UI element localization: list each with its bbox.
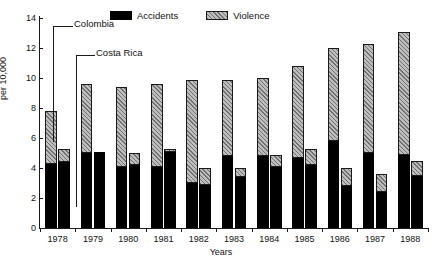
segment-accidents bbox=[151, 167, 163, 229]
bar-costa-rica-1980 bbox=[129, 153, 141, 228]
segment-violence bbox=[363, 44, 375, 154]
segment-violence bbox=[129, 153, 141, 165]
bar-costa-rica-1986 bbox=[341, 168, 353, 228]
leader-colombia-vertical bbox=[53, 26, 54, 142]
x-tick-label: 1979 bbox=[83, 234, 103, 244]
segment-violence bbox=[328, 48, 340, 141]
legend-label-violence: Violence bbox=[233, 10, 269, 21]
bar-costa-rica-1987 bbox=[376, 174, 388, 228]
segment-accidents bbox=[398, 155, 410, 229]
bar-colombia-1980 bbox=[116, 87, 128, 228]
x-tick-label: 1985 bbox=[295, 234, 315, 244]
segment-violence bbox=[305, 149, 317, 166]
x-tick bbox=[111, 228, 112, 232]
segment-accidents bbox=[129, 165, 141, 228]
stacked-bar-chart: per 10,000 02468101214 19781979198019811… bbox=[0, 0, 442, 270]
segment-accidents bbox=[328, 141, 340, 228]
segment-accidents bbox=[270, 167, 282, 229]
bar-costa-rica-1985 bbox=[305, 149, 317, 229]
leader-colombia-horizontal bbox=[53, 26, 73, 27]
segment-accidents bbox=[116, 167, 128, 229]
y-tick-label: 4 bbox=[0, 163, 36, 173]
segment-accidents bbox=[58, 162, 70, 228]
bar-colombia-1986 bbox=[328, 48, 340, 228]
x-tick bbox=[181, 228, 182, 232]
segment-accidents bbox=[363, 153, 375, 228]
x-tick bbox=[322, 228, 323, 232]
x-tick bbox=[75, 228, 76, 232]
segment-violence bbox=[164, 149, 176, 152]
segment-violence bbox=[81, 84, 93, 153]
segment-violence bbox=[398, 32, 410, 155]
segment-accidents bbox=[292, 158, 304, 229]
bar-costa-rica-1988 bbox=[411, 161, 423, 229]
segment-accidents bbox=[411, 176, 423, 229]
x-tick-label: 1980 bbox=[118, 234, 138, 244]
bar-costa-rica-1978 bbox=[58, 149, 70, 229]
x-tick bbox=[357, 228, 358, 232]
segment-accidents bbox=[94, 152, 106, 229]
y-tick-label: 14 bbox=[0, 13, 36, 23]
segment-accidents bbox=[235, 177, 247, 228]
x-tick bbox=[393, 228, 394, 232]
bar-costa-rica-1979 bbox=[94, 152, 106, 229]
y-tick-label: 10 bbox=[0, 73, 36, 83]
segment-violence bbox=[341, 168, 353, 186]
y-tick-label: 12 bbox=[0, 43, 36, 53]
violence-swatch-icon bbox=[206, 11, 228, 20]
segment-accidents bbox=[186, 183, 198, 228]
legend: Accidents Violence bbox=[110, 10, 269, 21]
segment-violence bbox=[270, 155, 282, 167]
x-tick-label: 1981 bbox=[153, 234, 173, 244]
segment-violence bbox=[235, 168, 247, 177]
segment-violence bbox=[116, 87, 128, 167]
x-tick-label: 1983 bbox=[224, 234, 244, 244]
x-tick bbox=[216, 228, 217, 232]
segment-violence bbox=[292, 66, 304, 158]
segment-violence bbox=[411, 161, 423, 176]
x-tick bbox=[252, 228, 253, 232]
segment-violence bbox=[222, 80, 234, 157]
x-tick bbox=[146, 228, 147, 232]
bar-colombia-1983 bbox=[222, 80, 234, 229]
segment-accidents bbox=[376, 192, 388, 228]
legend-item-accidents: Accidents bbox=[110, 10, 178, 21]
segment-violence bbox=[186, 80, 198, 184]
segment-accidents bbox=[45, 164, 57, 229]
segment-accidents bbox=[305, 165, 317, 228]
segment-accidents bbox=[222, 156, 234, 228]
bar-costa-rica-1983 bbox=[235, 168, 247, 228]
segment-accidents bbox=[164, 152, 176, 229]
bar-costa-rica-1982 bbox=[199, 168, 211, 228]
x-tick-label: 1986 bbox=[330, 234, 350, 244]
legend-label-accidents: Accidents bbox=[137, 10, 178, 21]
annotation-costa-rica: Costa Rica bbox=[96, 47, 142, 58]
annotation-colombia: Colombia bbox=[74, 18, 114, 29]
x-tick-label: 1988 bbox=[400, 234, 420, 244]
x-tick-label: 1978 bbox=[48, 234, 68, 244]
bar-colombia-1981 bbox=[151, 84, 163, 228]
x-tick bbox=[40, 228, 41, 232]
bar-colombia-1979 bbox=[81, 84, 93, 228]
bar-colombia-1978 bbox=[45, 111, 57, 228]
segment-accidents bbox=[257, 156, 269, 228]
bar-colombia-1987 bbox=[363, 44, 375, 229]
leader-costarica-horizontal bbox=[76, 55, 95, 56]
bar-colombia-1982 bbox=[186, 80, 198, 229]
y-tick-label: 0 bbox=[0, 223, 36, 233]
x-tick-label: 1982 bbox=[189, 234, 209, 244]
x-tick-label: 1987 bbox=[365, 234, 385, 244]
segment-violence bbox=[151, 84, 163, 167]
y-tick-label: 6 bbox=[0, 133, 36, 143]
y-tick-label: 8 bbox=[0, 103, 36, 113]
leader-costarica-vertical bbox=[76, 55, 77, 207]
x-tick bbox=[428, 228, 429, 232]
x-axis-title: Years bbox=[0, 247, 442, 257]
segment-accidents bbox=[199, 185, 211, 229]
segment-violence bbox=[376, 174, 388, 192]
bar-colombia-1985 bbox=[292, 66, 304, 228]
y-tick-label: 2 bbox=[0, 193, 36, 203]
bar-costa-rica-1984 bbox=[270, 155, 282, 229]
bar-costa-rica-1981 bbox=[164, 149, 176, 229]
segment-violence bbox=[257, 78, 269, 156]
